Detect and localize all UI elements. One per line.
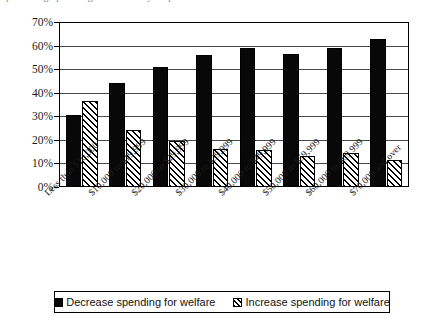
legend-swatch-decrease-icon [54,298,63,307]
y-tick-label: 20% [32,134,53,146]
y-tick-label: 40% [32,87,53,99]
legend-swatch-increase-icon [233,298,242,307]
legend-entry: Increase spending for welfare [233,296,389,308]
y-tick-label: 10% [32,157,53,169]
bar-increase [387,160,402,187]
y-tick-label: 60% [32,40,53,52]
bar-chart: 70%60%50%40%30%20%10%0% Less than $10,00… [0,0,424,282]
legend-label: Increase spending for welfare [245,296,389,308]
legend-entry: Decrease spending for welfare [54,296,215,308]
y-tick-label: 50% [32,63,53,75]
y-axis: 70%60%50%40%30%20%10%0% [0,22,53,187]
legend-label: Decrease spending for welfare [66,296,215,308]
y-tick-label: 30% [32,110,53,122]
chart-legend: Decrease spending for welfareIncrease sp… [54,291,390,313]
x-axis: Less than $10,000$10,000 to $19,999$20,0… [0,190,424,282]
y-tick-label: 70% [32,16,53,28]
